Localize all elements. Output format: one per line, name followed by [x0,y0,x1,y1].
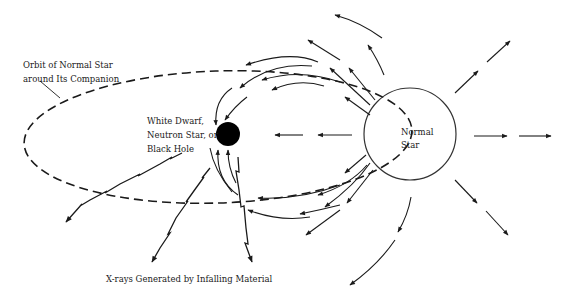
compact-object-circle [216,122,240,146]
orbit-label-line-1: Orbit of Normal Star [23,58,119,72]
x-ray-binary-diagram: Orbit of Normal Star around Its Companio… [0,0,568,299]
orbit-label: Orbit of Normal Star around Its Companio… [23,58,119,86]
star-label-line-2: Star [401,139,433,152]
xray-ray-middle [152,168,210,262]
compact-label-line-2: Neutron Star, or [147,128,218,142]
xray-ray-left [66,153,182,222]
xray-caption: X-rays Generated by Infalling Material [106,272,272,286]
compact-label-line-1: White Dwarf, [147,114,218,128]
xray-rays [66,153,252,262]
normal-star-label: Normal Star [401,126,433,152]
compact-object-label: White Dwarf, Neutron Star, or Black Hole [147,114,218,156]
star-label-line-1: Normal [401,126,433,139]
compact-label-line-3: Black Hole [147,142,218,156]
orbit-label-line-2: around Its Companion [23,72,119,86]
xray-ray-right [236,157,252,262]
diagram-graphics [0,0,568,299]
flow-arrows [210,15,551,285]
